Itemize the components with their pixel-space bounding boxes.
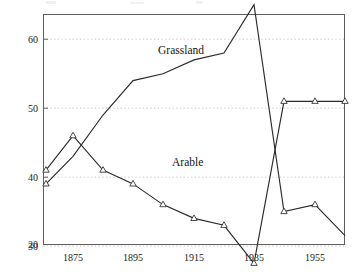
data-point-marker (312, 201, 318, 207)
grassland-markers (43, 180, 318, 213)
data-point-marker (312, 98, 318, 104)
y-tick-label-20: 20 (28, 239, 38, 250)
y-tick-label: 60 (28, 34, 38, 45)
data-point-marker (342, 98, 348, 104)
x-tick-label: 1875 (63, 252, 83, 263)
arable-line (46, 101, 345, 263)
y-tick-label: 40 (28, 172, 38, 183)
data-point-marker (281, 98, 287, 104)
data-point-marker (70, 132, 76, 138)
series-label-grassland: Grassland (158, 44, 204, 56)
x-tick-label: 1895 (123, 252, 143, 263)
y-tick-label: 50 (28, 103, 38, 114)
series-arable (46, 101, 345, 263)
chart-canvas: 60 50 40 30 20 20 1875 1895 1915 1935 19… (0, 0, 358, 274)
chart-figure: 60 50 40 30 20 20 1875 1895 1915 1935 19… (0, 0, 358, 274)
x-tick-label: 1955 (305, 252, 325, 263)
series-label-arable: Arable (172, 156, 203, 168)
arable-markers (43, 98, 348, 266)
y-tick-labels: 60 50 40 30 20 (28, 34, 38, 252)
x-tick-labels: 1875 1895 1915 1935 1955 (63, 252, 325, 263)
data-point-marker (160, 201, 166, 207)
x-tick-label: 1915 (184, 252, 204, 263)
